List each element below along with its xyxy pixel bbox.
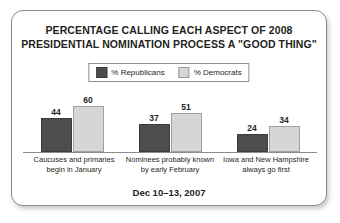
bar-wrap-rep-2: 37 bbox=[139, 95, 170, 152]
bar-dem-2[interactable] bbox=[171, 113, 202, 152]
bar-value-dem-3: 34 bbox=[279, 115, 288, 125]
category-label-1-line-1: Caucuses and primaries bbox=[26, 155, 122, 165]
bar-rep-3[interactable] bbox=[237, 134, 268, 152]
category-labels: Caucuses and primaries begin in January … bbox=[26, 155, 314, 175]
category-label-3-line-2: always go first bbox=[218, 165, 314, 175]
chart-title-line-2: PRESIDENTIAL NOMINATION PROCESS A "GOOD … bbox=[12, 38, 326, 52]
legend-item-democrats[interactable]: % Democrats bbox=[179, 67, 242, 78]
bar-wrap-dem-1: 60 bbox=[73, 95, 104, 152]
democrat-swatch-icon bbox=[179, 67, 190, 78]
chart-card: PERCENTAGE CALLING EACH ASPECT OF 2008 P… bbox=[11, 10, 327, 206]
category-label-1: Caucuses and primaries begin in January bbox=[26, 155, 122, 175]
bar-rep-2[interactable] bbox=[139, 124, 170, 152]
x-axis-line bbox=[23, 152, 317, 153]
bar-groups: 44 60 37 51 24 bbox=[26, 95, 314, 152]
bar-group-1: 44 60 bbox=[26, 95, 118, 152]
bar-wrap-rep-1: 44 bbox=[41, 95, 72, 152]
legend-item-republicans[interactable]: % Republicans bbox=[96, 67, 164, 78]
bar-value-rep-2: 37 bbox=[149, 113, 158, 123]
bar-rep-1[interactable] bbox=[41, 118, 72, 152]
bar-wrap-rep-3: 24 bbox=[237, 95, 268, 152]
republican-swatch-icon bbox=[96, 67, 107, 78]
bar-value-dem-2: 51 bbox=[181, 102, 190, 112]
legend-label-democrats: % Democrats bbox=[194, 68, 242, 77]
bar-dem-1[interactable] bbox=[73, 106, 104, 152]
bar-wrap-dem-3: 34 bbox=[269, 95, 300, 152]
chart-title: PERCENTAGE CALLING EACH ASPECT OF 2008 P… bbox=[12, 24, 326, 51]
bar-group-2: 37 51 bbox=[124, 95, 216, 152]
chart-legend: % Republicans % Democrats bbox=[88, 63, 249, 82]
legend-label-republicans: % Republicans bbox=[111, 68, 164, 77]
category-label-3-line-1: Iowa and New Hampshire bbox=[218, 155, 314, 165]
category-label-3: Iowa and New Hampshire always go first bbox=[218, 155, 314, 175]
category-label-2-line-1: Nominees probably known bbox=[122, 155, 218, 165]
category-label-2: Nominees probably known by early Februar… bbox=[122, 155, 218, 175]
category-label-2-line-2: by early February bbox=[122, 165, 218, 175]
bar-value-rep-1: 44 bbox=[51, 107, 60, 117]
bar-group-3: 24 34 bbox=[222, 95, 314, 152]
bar-dem-3[interactable] bbox=[269, 126, 300, 152]
bar-value-dem-1: 60 bbox=[83, 95, 92, 105]
chart-footer-date: Dec 10–13, 2007 bbox=[12, 187, 326, 198]
bar-wrap-dem-2: 51 bbox=[171, 95, 202, 152]
chart-title-line-1: PERCENTAGE CALLING EACH ASPECT OF 2008 bbox=[12, 24, 326, 38]
category-label-1-line-2: begin in January bbox=[26, 165, 122, 175]
bar-value-rep-3: 24 bbox=[247, 123, 256, 133]
plot-area: 44 60 37 51 24 bbox=[26, 95, 314, 152]
